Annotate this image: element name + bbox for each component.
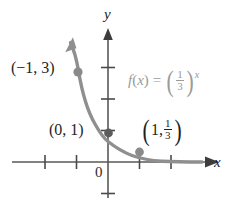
fraction-denominator: 3	[164, 129, 172, 141]
point-label-1-one-third: ( 1 , 1 3 )	[141, 118, 183, 143]
fraction-one-third: 1 3	[164, 118, 172, 142]
exponential-function-graph: y x 0 (−1, 3) (0, 1) ( 1 , 1 3 ) f ( x )…	[0, 0, 231, 214]
point-comma: ,	[159, 122, 163, 138]
base-numerator: 1	[176, 69, 184, 80]
equals-sign: =	[153, 73, 161, 88]
base-denominator: 3	[176, 80, 184, 92]
fraction-numerator: 1	[164, 118, 172, 129]
right-paren: )	[174, 119, 181, 141]
plot-canvas	[0, 0, 231, 214]
point-label-0-1: (0, 1)	[49, 122, 84, 138]
point-x-value: 1	[151, 122, 159, 138]
expr-left-paren: (	[167, 70, 174, 92]
function-arg-close: )	[144, 73, 149, 88]
function-expression-label: f ( x ) = ( 1 3 ) x	[128, 69, 199, 93]
base-fraction-one-third: 1 3	[176, 69, 184, 93]
exponent: x	[195, 70, 199, 80]
function-expression-math: f ( x ) = ( 1 3 ) x	[128, 69, 199, 93]
point-label-minus1-3: (−1, 3)	[11, 60, 55, 76]
y-axis-label: y	[104, 7, 111, 22]
function-arg: x	[137, 73, 144, 88]
left-paren: (	[142, 119, 149, 141]
x-axis-label: x	[214, 155, 221, 170]
y-axis	[103, 28, 113, 198]
origin-label: 0	[95, 165, 103, 180]
expr-right-paren: )	[186, 70, 193, 92]
point-label-1-one-third-math: ( 1 , 1 3 )	[141, 118, 183, 142]
